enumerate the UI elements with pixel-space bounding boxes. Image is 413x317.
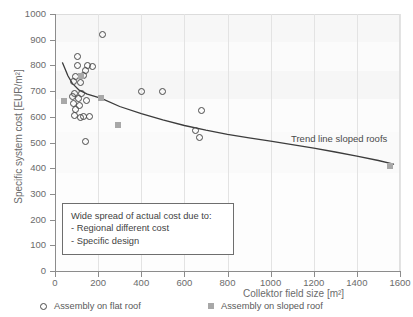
annotation-line-1: Wide spread of actual cost due to: (71, 210, 226, 222)
data-point-flat-0 (99, 31, 106, 38)
data-point-flat-4 (89, 63, 96, 70)
data-point-flat-16 (83, 97, 90, 104)
data-point-flat-27 (82, 138, 89, 145)
y-tick-label-0: 0 (4, 266, 46, 276)
y-tick-label-600: 600 (4, 112, 46, 122)
chart-legend: Assembly on flat roof Assembly on sloped… (0, 299, 413, 315)
legend-label-sloped-roof: Assembly on sloped roof (221, 301, 323, 311)
data-point-flat-20 (198, 107, 205, 114)
annotation-line-2: - Regional different cost (71, 222, 226, 234)
y-tick-label-1000: 1000 (4, 9, 46, 19)
y-tick-900 (50, 40, 55, 41)
data-point-sloped-4 (387, 163, 393, 169)
data-point-sloped-0 (61, 98, 67, 104)
legend-item-flat-roof: Assembly on flat roof (40, 299, 141, 313)
y-tick-700 (50, 91, 55, 92)
data-point-flat-2 (74, 62, 81, 69)
y-tick-label-500: 500 (4, 138, 46, 148)
x-tick-label-200: 200 (78, 278, 118, 288)
y-tick-label-200: 200 (4, 215, 46, 225)
annotation-line-3: - Specific design (71, 235, 226, 247)
filled-square-icon (208, 303, 214, 309)
y-tick-300 (50, 194, 55, 195)
y-tick-100 (50, 245, 55, 246)
chart-figure: 01002003004005006007008009001000 0200400… (0, 0, 413, 317)
x-tick-label-0: 0 (35, 278, 75, 288)
data-point-sloped-2 (98, 95, 104, 101)
data-point-flat-10 (138, 88, 145, 95)
x-tick-label-1000: 1000 (251, 278, 291, 288)
data-point-flat-26 (196, 134, 203, 141)
y-tick-label-800: 800 (4, 60, 46, 70)
data-point-sloped-3 (115, 122, 121, 128)
y-tick-label-700: 700 (4, 86, 46, 96)
x-tick-label-800: 800 (208, 278, 248, 288)
data-point-sloped-1 (78, 73, 84, 79)
x-tick-label-400: 400 (121, 278, 161, 288)
y-axis-title: Specific system cost [EUR/m²] (13, 12, 24, 262)
data-point-flat-9 (77, 79, 84, 86)
y-tick-label-900: 900 (4, 35, 46, 45)
trend-line-label: Trend line sloped roofs (291, 133, 387, 144)
gridline-x-1000 (271, 14, 272, 271)
open-circle-icon (40, 303, 47, 310)
y-tick-label-300: 300 (4, 189, 46, 199)
x-axis-title: Collektor field size [m²] (243, 288, 344, 299)
y-axis-line (55, 14, 56, 272)
y-tick-400 (50, 168, 55, 169)
y-tick-600 (50, 117, 55, 118)
gridline-x-1600 (400, 14, 401, 271)
annotation-box: Wide spread of actual cost due to: - Reg… (62, 203, 234, 255)
legend-item-sloped-roof: Assembly on sloped roof (208, 299, 323, 313)
legend-label-flat-roof: Assembly on flat roof (54, 301, 141, 311)
y-tick-label-400: 400 (4, 163, 46, 173)
y-tick-200 (50, 220, 55, 221)
y-tick-1000 (50, 14, 55, 15)
data-point-flat-24 (77, 114, 84, 121)
x-tick-label-600: 600 (164, 278, 204, 288)
y-tick-800 (50, 65, 55, 66)
x-tick-label-1200: 1200 (294, 278, 334, 288)
y-tick-500 (50, 143, 55, 144)
x-tick-label-1600: 1600 (380, 278, 413, 288)
y-tick-label-100: 100 (4, 240, 46, 250)
x-tick-label-1400: 1400 (337, 278, 377, 288)
